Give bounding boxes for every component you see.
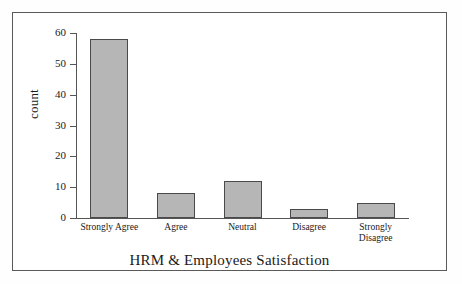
chart-figure: count 0102030405060 Strongly AgreeAgreeN… bbox=[0, 0, 462, 284]
y-tick-mark bbox=[70, 218, 76, 219]
y-tick-label: 40 bbox=[4, 89, 66, 100]
bar bbox=[224, 181, 262, 218]
bar bbox=[157, 193, 195, 218]
x-axis-title: HRM & Employees Satisfaction bbox=[12, 252, 447, 269]
y-tick-label: 20 bbox=[4, 150, 66, 161]
y-tick-label: 0 bbox=[4, 212, 66, 223]
x-tick-label: StronglyDisagree bbox=[342, 222, 409, 244]
x-tick-label-line: Strongly Agree bbox=[76, 222, 143, 233]
x-tick-label-line: Strongly bbox=[342, 222, 409, 233]
bar bbox=[357, 203, 395, 218]
y-tick-label: 60 bbox=[4, 27, 66, 38]
x-tick-label-line: Disagree bbox=[342, 233, 409, 244]
y-tick-label: 50 bbox=[4, 58, 66, 69]
x-tick-label-line: Neutral bbox=[209, 222, 276, 233]
x-axis-tick-labels: Strongly AgreeAgreeNeutralDisagreeStrong… bbox=[76, 222, 409, 254]
y-tick-label: 30 bbox=[4, 120, 66, 131]
bars-layer bbox=[76, 33, 409, 218]
x-tick-label-line: Agree bbox=[143, 222, 210, 233]
y-tick-label: 10 bbox=[4, 181, 66, 192]
x-axis-line bbox=[76, 218, 409, 219]
x-tick-label: Agree bbox=[143, 222, 210, 233]
bar bbox=[90, 39, 128, 218]
x-tick-label-line: Disagree bbox=[276, 222, 343, 233]
bar bbox=[290, 209, 328, 218]
x-tick-label: Disagree bbox=[276, 222, 343, 233]
x-tick-label: Neutral bbox=[209, 222, 276, 233]
x-tick-label: Strongly Agree bbox=[76, 222, 143, 233]
y-axis-title: count bbox=[26, 64, 42, 144]
